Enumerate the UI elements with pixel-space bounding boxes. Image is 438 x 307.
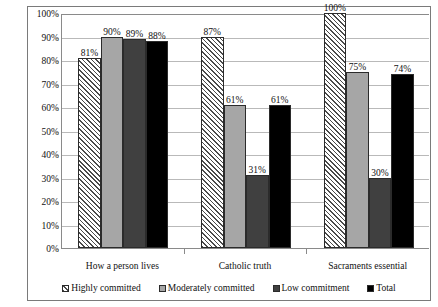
y-axis-tick-label: 20% [27, 198, 59, 208]
bar-value-label: 74% [394, 64, 411, 74]
y-axis-tick-label: 30% [27, 174, 59, 184]
legend-swatch-icon [273, 285, 280, 292]
bar-value-label: 90% [103, 27, 120, 37]
bar: 81% [78, 58, 101, 248]
y-axis-tick-label: 90% [27, 33, 59, 43]
legend-item[interactable]: Total [367, 283, 395, 293]
y-axis-tick-mark [56, 226, 59, 227]
bar-value-label: 30% [371, 168, 388, 178]
bar: 74% [391, 74, 414, 248]
y-axis-tick-mark [56, 202, 59, 203]
bar: 61% [224, 105, 247, 248]
y-axis-tick-label: 70% [27, 80, 59, 90]
category-tick [306, 249, 307, 254]
bar: 100% [324, 13, 347, 248]
bar: 30% [369, 178, 392, 249]
bar-group: 87%61%31%61% [201, 14, 291, 248]
bar: 75% [346, 72, 369, 248]
bar: 31% [246, 175, 269, 248]
legend-item[interactable]: Low commitment [273, 283, 350, 293]
legend-swatch-icon [367, 285, 374, 292]
bar-value-label: 88% [148, 31, 165, 41]
bar: 89% [123, 39, 146, 248]
bar: 87% [201, 37, 224, 249]
y-axis-tick-mark [56, 85, 59, 86]
y-axis-tick-label: 10% [27, 221, 59, 231]
y-axis-tick-mark [56, 14, 59, 15]
legend-label: Low commitment [282, 283, 350, 293]
bar-group: 81%90%89%88% [78, 14, 168, 248]
bar: 61% [269, 105, 292, 248]
legend-item[interactable]: Moderately committed [159, 283, 255, 293]
category-label: How a person lives [61, 261, 184, 272]
category-label: Sacraments essential [306, 261, 429, 272]
y-axis-tick-label: 0% [27, 245, 59, 255]
y-axis-tick-mark [56, 132, 59, 133]
y-axis-tick-label: 80% [27, 57, 59, 67]
y-axis-tick-mark [56, 38, 59, 39]
chart-frame: 0%10%20%30%40%50%60%70%80%90%100% 81%90%… [27, 6, 431, 301]
legend-item[interactable]: Highly committed [62, 283, 140, 293]
bar: 88% [146, 41, 169, 248]
legend-label: Total [376, 283, 395, 293]
y-axis-tick-label: 40% [27, 151, 59, 161]
y-axis-tick-mark [56, 61, 59, 62]
bar: 90% [101, 37, 124, 249]
y-axis-tick-label: 50% [27, 127, 59, 137]
legend-label: Highly committed [71, 283, 140, 293]
y-axis-tick-labels: 0%10%20%30%40%50%60%70%80%90%100% [28, 14, 59, 249]
bar-value-label: 61% [271, 95, 288, 105]
bar-value-label: 75% [349, 62, 366, 72]
bar-value-label: 61% [226, 95, 243, 105]
chart-legend: Highly committedModerately committedLow … [28, 281, 430, 295]
bar-value-label: 89% [126, 29, 143, 39]
bar-value-label: 81% [81, 48, 98, 58]
y-axis-tick-mark [56, 155, 59, 156]
y-axis-tick-mark [56, 249, 59, 250]
bar-value-label: 100% [324, 3, 346, 13]
category-label: Catholic truth [184, 261, 307, 272]
bar-value-label: 87% [204, 27, 221, 37]
bar-value-label: 31% [249, 165, 266, 175]
category-tick [184, 249, 185, 254]
y-axis-tick-mark [56, 179, 59, 180]
legend-swatch-icon [62, 285, 69, 292]
legend-swatch-icon [159, 285, 166, 292]
bar-group: 100%75%30%74% [324, 14, 414, 248]
y-axis-tick-label: 60% [27, 104, 59, 114]
y-axis-tick-mark [56, 108, 59, 109]
legend-label: Moderately committed [168, 283, 255, 293]
plot-area: 81%90%89%88%87%61%31%61%100%75%30%74% [61, 14, 429, 249]
y-axis-tick-label: 100% [27, 10, 59, 20]
